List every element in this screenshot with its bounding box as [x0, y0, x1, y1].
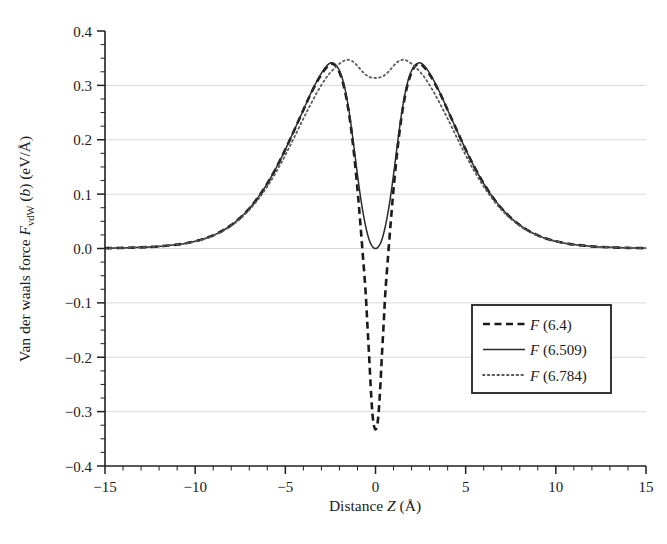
svg-text:Van der waals force FvdW (b) (: Van der waals force FvdW (b) (eV/Å) — [16, 136, 36, 362]
legend-label-2: F (6.784) — [529, 368, 587, 385]
legend: F (6.4)F (6.509)F (6.784) — [472, 305, 611, 393]
chart-background — [0, 0, 667, 544]
x-axis-title: Distance Z (Å) — [329, 497, 421, 515]
y-tick-label: 0.1 — [73, 187, 92, 203]
legend-label-1: F (6.509) — [529, 342, 587, 359]
x-tick-label: −10 — [183, 479, 206, 495]
y-tick-label: −0.3 — [65, 404, 92, 420]
y-tick-label: 0.3 — [73, 78, 92, 94]
legend-label-0: F (6.4) — [529, 317, 572, 334]
y-tick-label: −0.2 — [65, 350, 92, 366]
y-tick-label: 0.4 — [73, 24, 92, 40]
chart-container: −0.4−0.3−0.2−0.10.00.10.20.30.4 −15−10−5… — [0, 0, 667, 544]
y-tick-label: 0.0 — [73, 241, 92, 257]
x-tick-label: 0 — [372, 479, 380, 495]
y-tick-label: −0.1 — [65, 295, 92, 311]
van-der-waals-force-chart: −0.4−0.3−0.2−0.10.00.10.20.30.4 −15−10−5… — [0, 0, 667, 544]
x-tick-label: 10 — [548, 479, 563, 495]
y-axis-title: Van der waals force FvdW (b) (eV/Å) — [16, 136, 36, 362]
x-tick-label: 15 — [639, 479, 654, 495]
y-tick-label: −0.4 — [65, 459, 93, 475]
x-tick-label: −5 — [277, 479, 293, 495]
y-tick-label: 0.2 — [73, 132, 92, 148]
x-tick-label: −15 — [93, 479, 116, 495]
x-tick-label: 5 — [462, 479, 470, 495]
